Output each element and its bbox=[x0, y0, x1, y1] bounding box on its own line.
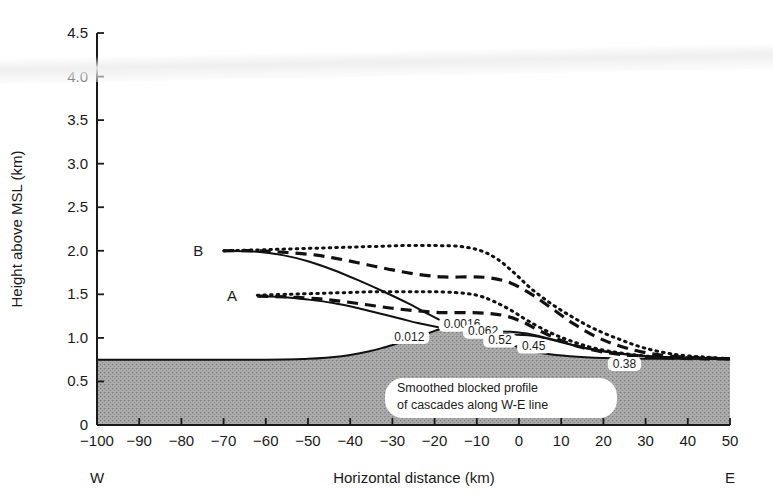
contour-label: 0.38 bbox=[613, 357, 637, 371]
y-tick-label: 1.0 bbox=[67, 329, 88, 346]
x-tick-label: −70 bbox=[211, 432, 236, 449]
y-tick-label: 0.5 bbox=[67, 372, 88, 389]
x-tick-label: −20 bbox=[422, 432, 447, 449]
x-tick-label: 30 bbox=[637, 432, 654, 449]
x-tick-label: −60 bbox=[253, 432, 278, 449]
curve-start-label-B: B bbox=[193, 242, 203, 259]
x-tick-label: 20 bbox=[595, 432, 612, 449]
annotation-line-2: of cascades along W-E line bbox=[397, 398, 548, 412]
contour-label: 0.45 bbox=[522, 339, 546, 353]
x-tick-label: −30 bbox=[380, 432, 405, 449]
y-tick-label: 0 bbox=[80, 416, 88, 433]
x-axis-title: Horizontal distance (km) bbox=[333, 469, 495, 486]
y-tick-label: 3.0 bbox=[67, 155, 88, 172]
x-tick-label: −10 bbox=[464, 432, 489, 449]
x-tick-label: −100 bbox=[80, 432, 114, 449]
x-tick-label: −50 bbox=[295, 432, 320, 449]
x-tick-label: 0 bbox=[515, 432, 523, 449]
y-tick-label: 4.0 bbox=[67, 68, 88, 85]
y-tick-label: 4.5 bbox=[67, 24, 88, 41]
contour-label: 0.52 bbox=[488, 333, 512, 347]
x-tick-label: 50 bbox=[722, 432, 739, 449]
x-tick-label: −40 bbox=[337, 432, 362, 449]
y-axis-title: Height above MSL (km) bbox=[8, 150, 25, 307]
contour-label: 0.012 bbox=[394, 330, 424, 344]
west-orientation-label: W bbox=[90, 469, 105, 486]
x-tick-label: −80 bbox=[169, 432, 194, 449]
x-tick-label: 40 bbox=[679, 432, 696, 449]
curve-start-label-A: A bbox=[227, 287, 237, 304]
east-orientation-label: E bbox=[725, 469, 735, 486]
y-tick-label: 2.5 bbox=[67, 198, 88, 215]
y-tick-label: 1.5 bbox=[67, 285, 88, 302]
x-tick-label: 10 bbox=[553, 432, 570, 449]
terrain-streamline-chart: 0.0120.00160.0620.520.450.38 BA Smoothed… bbox=[0, 0, 773, 500]
y-tick-label: 2.0 bbox=[67, 242, 88, 259]
y-tick-label: 3.5 bbox=[67, 111, 88, 128]
chart-figure: 0.0120.00160.0620.520.450.38 BA Smoothed… bbox=[0, 0, 773, 500]
x-tick-label: −90 bbox=[126, 432, 151, 449]
annotation-line-1: Smoothed blocked profile bbox=[397, 381, 538, 395]
terrain-annotation: Smoothed blocked profile of cascades alo… bbox=[385, 378, 617, 418]
